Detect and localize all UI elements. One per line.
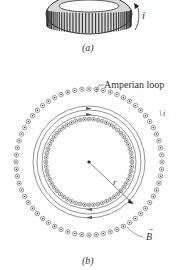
current-label-a: i bbox=[142, 10, 145, 21]
field-label: → B bbox=[146, 232, 152, 242]
caption-b: (b) bbox=[82, 256, 94, 266]
caption-a: (a) bbox=[82, 43, 94, 53]
radius-label: r bbox=[113, 178, 117, 187]
amperian-loop-label: Amperian loop bbox=[104, 80, 164, 90]
toroid-3d bbox=[46, 0, 139, 34]
vector-arrow-icon: → bbox=[146, 225, 154, 233]
current-label-b: i bbox=[163, 110, 165, 118]
toroid-cross-section bbox=[14, 85, 164, 237]
